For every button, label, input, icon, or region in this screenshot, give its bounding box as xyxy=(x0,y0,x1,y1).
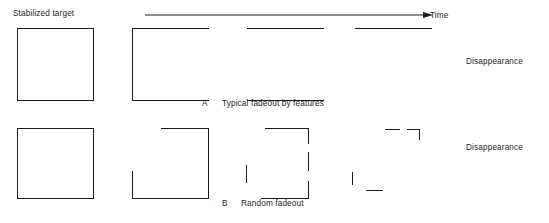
stabilized-target-label: Stabilized target xyxy=(13,9,74,18)
square-right-edge xyxy=(93,128,94,199)
panel-letter-b: B xyxy=(222,199,228,208)
square-bottom-edge xyxy=(247,100,324,101)
square-top-edge xyxy=(247,28,324,29)
square-left-edge-fragment xyxy=(246,165,247,183)
figure-canvas: Stabilized target Time Disappearance Dis… xyxy=(0,0,549,223)
square-left-edge xyxy=(17,28,18,101)
square-left-edge-partial xyxy=(132,171,133,199)
panel-caption-b: Random fadeout xyxy=(241,199,304,208)
square-top-edge-partial xyxy=(265,128,309,129)
square-top-edge xyxy=(17,128,94,129)
square-left-edge xyxy=(17,128,18,199)
square-bottom-edge-partial xyxy=(261,198,309,199)
bottom-edge-fragment xyxy=(366,190,383,191)
square-top-edge xyxy=(355,28,432,29)
corner-fragment-vertical xyxy=(419,129,420,140)
square-bottom-edge xyxy=(17,198,94,199)
disappearance-label-row-a: Disappearance xyxy=(466,57,523,66)
square-right-edge-dash-2 xyxy=(308,152,309,171)
square-top-edge-partial xyxy=(161,128,209,129)
square-top-edge xyxy=(132,28,209,29)
square-top-edge xyxy=(17,28,94,29)
time-arrow-icon xyxy=(145,9,435,21)
square-bottom-edge xyxy=(132,100,209,101)
square-left-edge xyxy=(132,28,133,101)
square-right-edge xyxy=(93,28,94,101)
top-edge-fragment xyxy=(385,129,400,130)
square-right-edge xyxy=(208,128,209,199)
disappearance-label-row-b: Disappearance xyxy=(466,143,523,152)
square-bottom-edge xyxy=(17,100,94,101)
left-edge-fragment xyxy=(352,172,353,185)
square-bottom-edge xyxy=(132,198,209,199)
square-right-edge-dash-3 xyxy=(308,181,309,199)
square-right-edge-dash-1 xyxy=(308,128,309,144)
